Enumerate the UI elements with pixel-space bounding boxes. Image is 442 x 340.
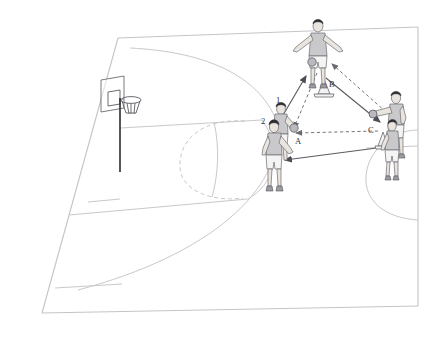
label-2: 2: [261, 117, 265, 126]
court-illustration: [0, 0, 442, 340]
player-2-figure: [262, 120, 293, 191]
basketball-B: [308, 58, 316, 66]
label-C: C: [368, 126, 374, 135]
label-B: B: [329, 80, 335, 89]
arrow-C-to-A: [296, 131, 378, 133]
label-A: A: [295, 137, 301, 146]
free-throw-circle-dashed: [180, 121, 245, 199]
free-throw-circle-divider: [212, 122, 218, 197]
three-point-arc-main: [78, 125, 278, 290]
basketball-C: [369, 110, 377, 118]
court-baseline: [42, 306, 418, 313]
basketball-hoop-assembly: [101, 76, 141, 172]
court-lines: [42, 27, 418, 313]
label-1: 1: [276, 96, 280, 105]
basketball-drill-diagram: 1 2 A B C: [0, 0, 442, 340]
key-lane-top-line: [120, 120, 262, 128]
three-point-arc-upper: [130, 48, 278, 125]
basketball-1: [290, 124, 298, 132]
sideline-inner-line: [88, 199, 120, 202]
court-far-sideline: [118, 27, 418, 38]
